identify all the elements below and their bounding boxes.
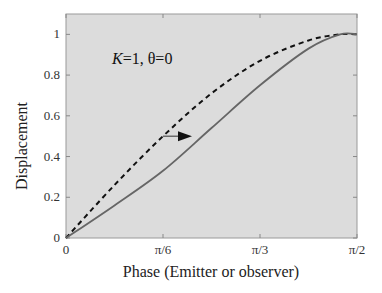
x-axis-label: Phase (Emitter or observer) xyxy=(123,263,299,281)
y-axis-label: Displacement xyxy=(13,101,31,190)
x-tick-label: π/6 xyxy=(155,242,172,257)
annotation: K=1, θ=0 xyxy=(111,50,172,67)
y-tick-label: 0 xyxy=(54,230,61,245)
y-tick-label: 0.2 xyxy=(44,189,60,204)
plot-area xyxy=(66,14,357,238)
x-tick-label: π/3 xyxy=(252,242,269,257)
y-tick-label: 0.8 xyxy=(44,67,60,82)
y-tick-label: 1 xyxy=(54,26,61,41)
x-tick-label: 0 xyxy=(63,242,70,257)
y-tick-label: 0.4 xyxy=(44,149,61,164)
displacement-chart: 0π/6π/3π/200.20.40.60.81 K=1, θ=0 Phase … xyxy=(0,0,382,293)
x-tick-label: π/2 xyxy=(349,242,366,257)
y-tick-label: 0.6 xyxy=(44,108,61,123)
